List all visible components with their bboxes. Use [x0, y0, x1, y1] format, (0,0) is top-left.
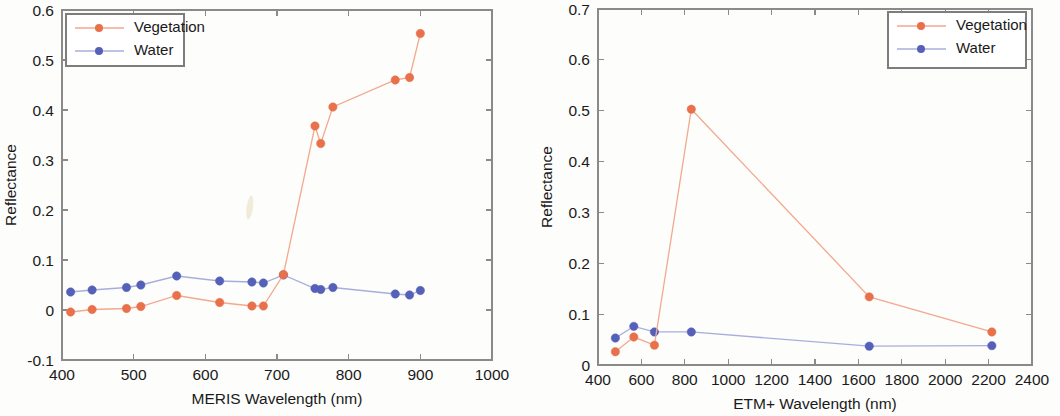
x-axis-title: MERIS Wavelength (nm): [192, 390, 363, 407]
y-tick-label: 0.1: [568, 306, 590, 323]
data-point-water: [122, 283, 130, 291]
x-tick-label: 400: [585, 371, 611, 388]
y-tick-label: 0.4: [568, 153, 590, 170]
data-point-vegetation: [122, 304, 130, 312]
data-point-vegetation: [88, 305, 96, 313]
data-point-water: [865, 342, 873, 350]
data-point-vegetation: [865, 293, 873, 301]
data-point-vegetation: [215, 298, 223, 306]
data-point-vegetation: [416, 29, 424, 37]
y-tick-label: 0.6: [32, 2, 54, 19]
x-tick-label: 1000: [711, 371, 746, 388]
data-point-vegetation: [391, 76, 399, 84]
figure-root: -0.100.10.20.30.40.50.640050060070080090…: [0, 0, 1060, 416]
x-tick-label: 400: [49, 366, 75, 383]
x-tick-label: 1800: [885, 371, 920, 388]
legend-label-vegetation: Vegetation: [134, 18, 205, 35]
x-tick-label: 600: [628, 371, 654, 388]
chart-legend: VegetationWater: [888, 12, 1027, 68]
etm-reflectance-chart: 00.10.20.30.40.50.60.7400600800100012001…: [520, 0, 1060, 416]
legend-marker-vegetation: [917, 22, 925, 30]
x-tick-label: 700: [264, 366, 290, 383]
x-tick-label: 800: [336, 366, 362, 383]
data-point-water: [988, 341, 996, 349]
data-point-water: [687, 328, 695, 336]
legend-label-vegetation: Vegetation: [956, 16, 1027, 33]
series-line-vegetation: [71, 34, 421, 313]
data-point-water: [416, 286, 424, 294]
data-point-vegetation: [172, 291, 180, 299]
x-tick-label: 2200: [971, 371, 1006, 388]
data-point-vegetation: [279, 270, 287, 278]
x-tick-label: 1000: [475, 366, 510, 383]
data-point-water: [611, 334, 619, 342]
data-point-water: [66, 288, 74, 296]
data-point-water: [88, 286, 96, 294]
y-tick-label: 0.5: [32, 52, 54, 69]
data-point-vegetation: [988, 328, 996, 336]
x-tick-label: 2000: [928, 371, 963, 388]
legend-marker-water: [917, 45, 925, 53]
x-tick-label: 2400: [1015, 371, 1050, 388]
y-tick-label: 0.2: [568, 255, 590, 272]
y-tick-label: 0.3: [32, 152, 54, 169]
data-point-water: [137, 281, 145, 289]
y-tick-label: 0.3: [568, 204, 590, 221]
data-point-vegetation: [248, 302, 256, 310]
data-point-water: [329, 283, 337, 291]
x-tick-label: 800: [672, 371, 698, 388]
data-point-vegetation: [317, 139, 325, 147]
data-point-vegetation: [137, 302, 145, 310]
chart-panel-meris: -0.100.10.20.30.40.50.640050060070080090…: [0, 0, 520, 416]
legend-marker-water: [95, 47, 103, 55]
chart-legend: VegetationWater: [66, 14, 205, 66]
x-tick-label: 1200: [754, 371, 789, 388]
data-point-vegetation: [687, 105, 695, 113]
data-point-vegetation: [630, 333, 638, 341]
data-point-water: [405, 291, 413, 299]
legend-label-water: Water: [956, 39, 995, 56]
meris-reflectance-chart: -0.100.10.20.30.40.50.640050060070080090…: [0, 0, 520, 416]
data-point-water: [317, 285, 325, 293]
data-point-water: [391, 290, 399, 298]
x-tick-label: 1400: [798, 371, 833, 388]
data-point-water: [172, 272, 180, 280]
legend-label-water: Water: [134, 41, 173, 58]
data-point-vegetation: [329, 103, 337, 111]
x-tick-label: 900: [407, 366, 433, 383]
chart-panel-etm: 00.10.20.30.40.50.60.7400600800100012001…: [520, 0, 1060, 416]
y-tick-label: 0.1: [32, 252, 54, 269]
scan-artifact-smudge: [245, 195, 255, 220]
legend-marker-vegetation: [95, 24, 103, 32]
data-point-vegetation: [66, 308, 74, 316]
y-tick-label: 0: [45, 302, 54, 319]
data-point-water: [630, 322, 638, 330]
y-axis-title: Reflectance: [538, 146, 555, 228]
y-axis-title: Reflectance: [2, 144, 19, 226]
series-line-vegetation: [615, 109, 991, 352]
y-tick-label: 0.4: [32, 102, 54, 119]
x-tick-label: 1600: [841, 371, 876, 388]
x-axis-title: ETM+ Wavelength (nm): [733, 395, 897, 412]
series-line-water: [615, 326, 991, 346]
data-point-vegetation: [405, 73, 413, 81]
data-point-vegetation: [311, 122, 319, 130]
data-point-water: [215, 277, 223, 285]
data-point-vegetation: [611, 348, 619, 356]
data-point-vegetation: [259, 302, 267, 310]
y-tick-label: 0.2: [32, 202, 54, 219]
y-tick-label: 0.6: [568, 51, 590, 68]
y-tick-label: 0.7: [568, 1, 590, 18]
x-tick-label: 500: [121, 366, 147, 383]
data-point-vegetation: [650, 341, 658, 349]
data-point-water: [259, 279, 267, 287]
y-tick-label: 0.5: [568, 102, 590, 119]
x-tick-label: 600: [192, 366, 218, 383]
data-point-water: [248, 278, 256, 286]
